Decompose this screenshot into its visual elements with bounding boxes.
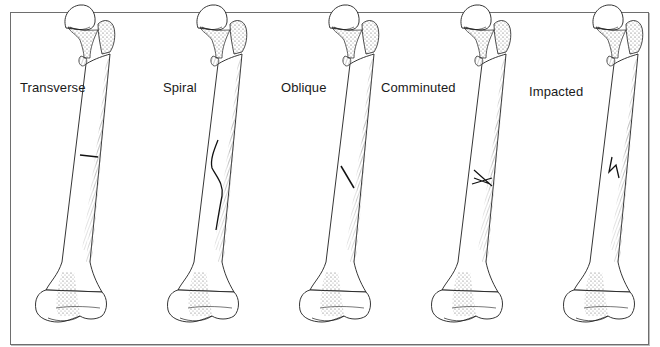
femur-illustration (150, 0, 260, 347)
fracture-type-label: Impacted (529, 84, 583, 99)
fracture-type-label: Comminuted (381, 80, 456, 95)
femur-illustration (282, 0, 392, 347)
femur-illustration (546, 0, 656, 347)
fracture-type-label: Transverse (20, 80, 86, 95)
femur-illustration (18, 0, 128, 347)
fracture-type-label: Spiral (163, 80, 197, 95)
femur-illustration (414, 0, 524, 347)
fracture-type-label: Oblique (281, 80, 327, 95)
